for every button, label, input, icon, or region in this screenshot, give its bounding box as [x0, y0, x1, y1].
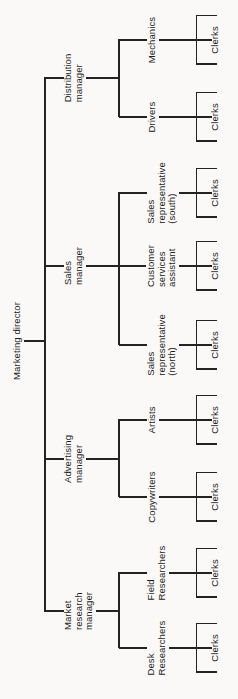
role-label-sales-rep-south: Sales representative (south) [146, 162, 178, 224]
drop-line [119, 572, 147, 574]
bracket-tick-line [196, 521, 218, 523]
clerks-label: Clerks [210, 634, 221, 662]
manager-label-market-research: Market research manager [63, 592, 95, 630]
bracket-tick-line [196, 168, 218, 170]
manager-label-advertising: Advertising manager [63, 435, 84, 483]
bracket-tick-line [196, 141, 218, 143]
bracket-tick-line [196, 472, 218, 474]
drop-line [159, 116, 212, 118]
drop-line [169, 647, 212, 649]
main-rail-line [44, 77, 46, 612]
role-label-sales-rep-north: Sales representative (north) [146, 314, 178, 376]
drop-line [169, 572, 212, 574]
drop-line [96, 610, 120, 612]
bracket-tick-line [196, 444, 218, 446]
clerks-label: Clerks [210, 252, 221, 280]
drop-line [119, 496, 147, 498]
bracket-tick-line [196, 290, 218, 292]
bracket-tick-line [196, 92, 218, 94]
branch-rail-line [118, 39, 120, 118]
bracket-bar-line [196, 241, 198, 291]
role-label-artists: Artists [147, 406, 158, 433]
drop-line [159, 419, 212, 421]
manager-label-sales: Sales manager [63, 247, 84, 285]
bracket-bar-line [196, 395, 198, 445]
bracket-tick-line [196, 369, 218, 371]
drop-line [86, 458, 120, 460]
bracket-tick-line [196, 64, 218, 66]
drop-line [86, 265, 146, 267]
role-label-copywriters: Copywriters [147, 471, 158, 522]
bracket-bar-line [196, 320, 198, 370]
drop-line [119, 419, 147, 421]
bracket-tick-line [196, 672, 218, 674]
bracket-tick-line [196, 395, 218, 397]
root-label: Marketing director [12, 302, 23, 380]
bracket-tick-line [196, 597, 218, 599]
role-label-field-researchers: Field Researchers [146, 546, 167, 601]
bracket-bar-line [196, 623, 198, 673]
drop-line [44, 610, 64, 612]
drop-line [44, 458, 64, 460]
clerks-label: Clerks [210, 559, 221, 587]
manager-label-distribution: Distribution manager [63, 54, 84, 103]
role-label-desk-researchers: Desk Researchers [146, 621, 167, 676]
bracket-tick-line [196, 15, 218, 17]
branch-rail-line [118, 572, 120, 649]
role-label-mechanics: Mechanics [147, 17, 158, 63]
bracket-bar-line [196, 92, 198, 142]
clerks-label: Clerks [210, 483, 221, 511]
clerks-label: Clerks [210, 331, 221, 359]
drop-line [159, 496, 212, 498]
bracket-tick-line [196, 217, 218, 219]
bracket-tick-line [196, 548, 218, 550]
role-label-drivers: Drivers [147, 102, 158, 133]
drop-line [119, 344, 147, 346]
clerks-label: Clerks [210, 26, 221, 54]
drop-line [44, 77, 64, 79]
drop-line [119, 192, 147, 194]
clerks-label: Clerks [210, 406, 221, 434]
bracket-tick-line [196, 320, 218, 322]
bracket-bar-line [196, 548, 198, 598]
role-label-customer-services: Customer services assistant [146, 245, 178, 287]
drop-line [44, 265, 64, 267]
drop-line [159, 39, 212, 41]
root-drop-line [24, 340, 45, 342]
bracket-bar-line [196, 15, 198, 65]
clerks-label: Clerks [210, 179, 221, 207]
drop-line [86, 77, 120, 79]
drop-line [119, 39, 147, 41]
org-chart-diagram: Marketing director Market research manag… [0, 0, 238, 699]
bracket-tick-line [196, 241, 218, 243]
branch-rail-line [118, 193, 120, 346]
bracket-tick-line [196, 623, 218, 625]
branch-rail-line [118, 420, 120, 498]
drop-line [119, 647, 147, 649]
drop-line [119, 116, 147, 118]
clerks-label: Clerks [210, 103, 221, 131]
bracket-bar-line [196, 168, 198, 218]
bracket-bar-line [196, 472, 198, 522]
